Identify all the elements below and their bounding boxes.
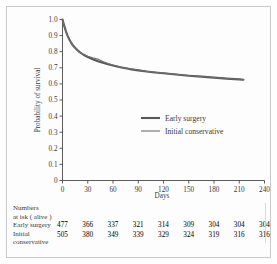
risk-value: 337 bbox=[108, 221, 119, 229]
y-tick-label: 0 bbox=[54, 177, 58, 185]
risk-value: 380 bbox=[82, 231, 93, 239]
y-tick-label: 0.1 bbox=[49, 161, 58, 169]
x-tick-label: 150 bbox=[183, 186, 194, 194]
risk-row-label: Initial bbox=[13, 230, 30, 238]
risk-row-label: Early surgery bbox=[13, 221, 51, 229]
risk-value: 349 bbox=[108, 231, 119, 239]
risk-value: 316 bbox=[259, 231, 270, 239]
series-lines bbox=[63, 20, 244, 80]
x-tick-label: 180 bbox=[209, 186, 220, 194]
y-axis-title: Probability of survival bbox=[34, 68, 42, 133]
risk-value: 329 bbox=[158, 231, 169, 239]
x-tick-label: 90 bbox=[135, 186, 143, 194]
risk-value: 304 bbox=[259, 221, 270, 229]
x-tick-label: 0 bbox=[61, 186, 65, 194]
numbers-at-risk-table: Numbersat isk ( alive )Early surgery4773… bbox=[13, 203, 270, 246]
y-tick-label: 0.5 bbox=[49, 96, 58, 104]
chart-legend: Early surgeryInitial conservative bbox=[141, 114, 224, 136]
series-line bbox=[63, 20, 244, 80]
figure-container: 00.10.20.30.40.50.60.70.80.91.0 03060901… bbox=[0, 0, 277, 264]
risk-value: 477 bbox=[57, 221, 68, 229]
risk-value: 304 bbox=[234, 221, 245, 229]
legend-label: Initial conservative bbox=[165, 127, 224, 136]
risk-value: 316 bbox=[234, 231, 245, 239]
survival-chart: 00.10.20.30.40.50.60.70.80.91.0 03060901… bbox=[0, 0, 277, 264]
x-tick-label: 240 bbox=[259, 186, 270, 194]
risk-value: 304 bbox=[209, 221, 220, 229]
y-axis: 00.10.20.30.40.50.60.70.80.91.0 bbox=[49, 16, 63, 185]
risk-value: 366 bbox=[82, 221, 93, 229]
risk-value: 339 bbox=[133, 231, 144, 239]
y-tick-label: 0.4 bbox=[49, 113, 58, 121]
risk-heading-line2: at isk ( alive ) bbox=[13, 213, 52, 221]
y-tick-label: 0.6 bbox=[49, 80, 58, 88]
risk-value: 321 bbox=[133, 221, 144, 229]
y-tick-label: 0.2 bbox=[49, 145, 58, 153]
risk-value: 314 bbox=[158, 221, 169, 229]
risk-value: 505 bbox=[57, 231, 68, 239]
risk-value: 309 bbox=[183, 221, 194, 229]
risk-value: 324 bbox=[183, 231, 194, 239]
y-tick-label: 0.3 bbox=[49, 129, 58, 137]
legend-label: Early surgery bbox=[165, 114, 206, 123]
x-tick-label: 60 bbox=[109, 186, 117, 194]
y-tick-label: 1.0 bbox=[49, 16, 58, 24]
y-tick-label: 0.9 bbox=[49, 32, 58, 40]
y-tick-label: 0.7 bbox=[49, 64, 58, 72]
risk-row-label-cont: conservative bbox=[13, 238, 48, 246]
risk-value: 319 bbox=[209, 231, 220, 239]
x-tick-label: 30 bbox=[84, 186, 92, 194]
y-tick-label: 0.8 bbox=[49, 48, 58, 56]
series-line bbox=[63, 20, 244, 80]
x-axis-title: Days bbox=[155, 192, 170, 200]
risk-heading-line1: Numbers bbox=[13, 204, 39, 212]
x-tick-label: 210 bbox=[234, 186, 245, 194]
